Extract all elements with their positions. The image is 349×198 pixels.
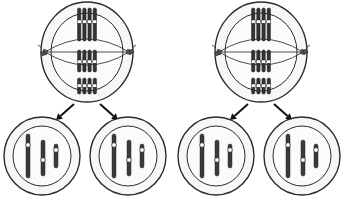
daughter-cell-left	[178, 117, 254, 195]
daughter-centromere-short	[228, 148, 233, 153]
daughter-centromere-long	[112, 143, 117, 148]
cell-division-illustration	[174, 0, 349, 198]
parent-cell	[212, 2, 310, 102]
centromere-band	[77, 60, 81, 63]
daughter-centromere-long	[26, 143, 31, 148]
centromere-band	[82, 20, 86, 23]
centromere-band	[256, 20, 260, 23]
centromere-band	[88, 84, 92, 87]
centromere-band	[267, 84, 271, 87]
centromere-band	[256, 84, 260, 87]
daughter-chromosome-long	[200, 134, 204, 178]
centromere-band	[262, 20, 266, 23]
centromere-band	[251, 60, 255, 63]
chromatid	[78, 8, 81, 41]
daughter-cell-right	[90, 117, 166, 195]
chromatid	[262, 8, 265, 41]
arrow-shaft	[274, 104, 288, 116]
chromatid	[267, 8, 270, 41]
daughter-chromosome-long	[286, 134, 290, 178]
daughter-centromere-long	[286, 143, 291, 148]
centromere-band	[93, 20, 97, 23]
centromere-band	[77, 20, 81, 23]
arrow-shaft	[100, 104, 114, 116]
daughter-centromere-medium	[301, 158, 306, 163]
daughter-centromere-medium	[41, 158, 46, 163]
centromere-band	[251, 20, 255, 23]
cell-division-panel-right	[174, 0, 349, 198]
daughter-centromere-short	[54, 148, 59, 153]
diagram-canvas	[0, 0, 349, 198]
centromere-band	[251, 84, 255, 87]
parent-cell	[38, 2, 136, 102]
centromere-band	[262, 60, 266, 63]
daughter-centromere-medium	[127, 158, 132, 163]
centromere-band	[93, 84, 97, 87]
daughter-centromere-short	[314, 148, 319, 153]
centromere-band	[77, 84, 81, 87]
centromere-band	[93, 60, 97, 63]
cell-division-panel-left	[0, 0, 175, 198]
chromatid	[93, 8, 96, 41]
arrow-shaft	[234, 104, 248, 116]
centromere-band	[267, 60, 271, 63]
arrow-to-right-daughter	[100, 104, 118, 120]
centromere-band	[82, 84, 86, 87]
arrow-to-right-daughter	[274, 104, 292, 120]
daughter-centromere-medium	[215, 158, 220, 163]
daughter-centromere-long	[200, 143, 205, 148]
daughter-cell-left	[4, 117, 80, 195]
centromere-band	[88, 20, 92, 23]
daughter-centromere-short	[140, 148, 145, 153]
daughter-chromosome-long	[26, 134, 30, 178]
chromatid	[252, 8, 255, 41]
arrow-to-left-daughter	[230, 104, 248, 120]
centromere-band	[262, 84, 266, 87]
chromatid	[83, 8, 86, 41]
daughter-chromosome-long	[112, 134, 116, 178]
arrow-to-left-daughter	[56, 104, 74, 120]
centromere-band	[256, 60, 260, 63]
chromatid	[88, 8, 91, 41]
centromere-band	[267, 20, 271, 23]
chromatid	[257, 8, 260, 41]
cell-division-illustration	[0, 0, 175, 198]
centromere-band	[88, 60, 92, 63]
daughter-cell-right	[264, 117, 340, 195]
arrow-shaft	[60, 104, 74, 116]
centromere-band	[82, 60, 86, 63]
